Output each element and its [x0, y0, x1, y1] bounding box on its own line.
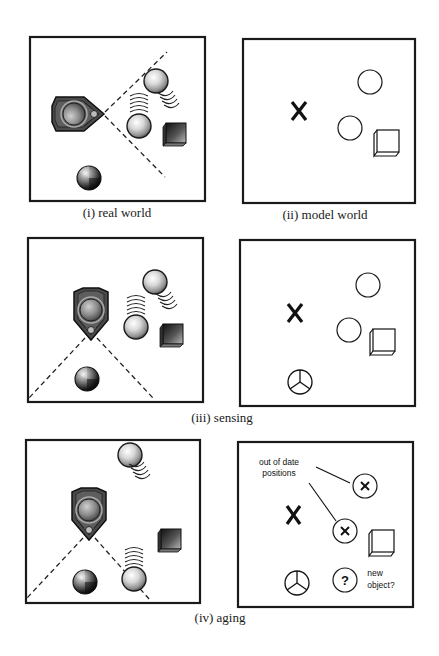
caption-iv: (iv) aging	[195, 610, 246, 625]
panel-iv-real-world	[26, 440, 200, 603]
sphere-icon	[143, 270, 167, 294]
shaded-sphere-icon	[75, 367, 99, 391]
panel-frame	[243, 39, 415, 203]
annotation-out-of-date-line2: positions	[262, 468, 296, 478]
crossed-circle-icon	[353, 474, 377, 498]
segmented-circle-icon	[285, 571, 309, 595]
cube-outline-icon	[369, 530, 394, 556]
figure-canvas: (i) real world (ii) model world	[0, 0, 439, 656]
modelled-ball-circle	[356, 273, 380, 297]
cube-icon	[163, 123, 186, 146]
shaded-sphere-icon	[77, 166, 101, 190]
question-mark: ?	[341, 573, 349, 588]
modelled-ball-circle	[337, 318, 361, 342]
crossed-circle-icon	[333, 519, 357, 543]
panel-frame	[26, 440, 200, 603]
modelled-ball-circle	[338, 116, 362, 140]
sphere-icon	[122, 567, 146, 591]
caption-ii: (ii) model world	[282, 207, 368, 222]
sphere-icon	[118, 443, 142, 467]
panel-ii-model-world	[243, 39, 415, 203]
caption-iii: (iii) sensing	[191, 410, 253, 425]
panel-frame	[240, 240, 415, 406]
panel-iii-real-world	[28, 238, 203, 402]
modelled-ball-circle	[358, 70, 382, 94]
cube-icon	[158, 529, 181, 552]
annotation-new-line2: object?	[367, 580, 395, 590]
panel-iii-model-world	[240, 240, 415, 406]
caption-i: (i) real world	[83, 205, 152, 220]
panel-frame	[28, 238, 203, 402]
cube-outline-icon	[370, 329, 395, 355]
annotation-new-line1: new	[367, 568, 383, 578]
cube-outline-icon	[374, 130, 399, 156]
sphere-icon	[144, 69, 168, 93]
sphere-icon	[127, 114, 151, 138]
panel-iv-model-world: out of date positions ? new	[238, 442, 413, 607]
annotation-out-of-date-line1: out of date	[259, 457, 299, 467]
cube-icon	[160, 324, 183, 347]
question-circle-icon: ?	[333, 568, 357, 592]
sphere-icon	[124, 315, 148, 339]
segmented-circle-icon	[288, 370, 312, 394]
shaded-sphere-icon	[73, 570, 97, 594]
panel-i-real-world	[30, 37, 205, 201]
